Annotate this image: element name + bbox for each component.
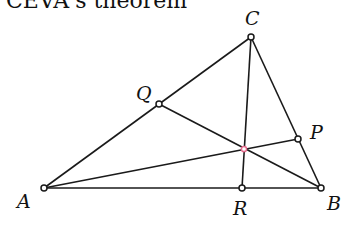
- point-p: [295, 136, 301, 142]
- cevian-cr: [242, 37, 251, 188]
- side-bc: [251, 37, 321, 188]
- point-r: [239, 185, 245, 191]
- point-q: [156, 101, 162, 107]
- ceva-diagram: A B C P Q R: [0, 0, 351, 232]
- label-b: B: [326, 192, 341, 214]
- label-p: P: [309, 121, 324, 143]
- vertex-a: [41, 185, 47, 191]
- label-a: A: [15, 190, 31, 212]
- cevian-bq: [159, 104, 321, 188]
- side-ca: [44, 37, 251, 188]
- label-c: C: [245, 7, 260, 29]
- vertex-c: [248, 34, 254, 40]
- label-q: Q: [136, 82, 152, 104]
- cevian-ap: [44, 139, 298, 188]
- vertex-b: [318, 185, 324, 191]
- label-r: R: [232, 197, 247, 219]
- concurrency-point: [241, 146, 246, 151]
